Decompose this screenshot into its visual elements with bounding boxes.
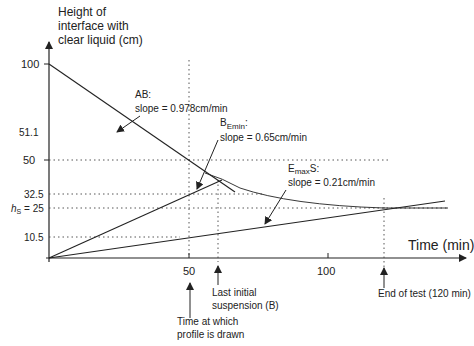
x-axis-label: Time (min) [408,237,474,253]
svg-text:BEmin:: BEmin: [220,117,248,131]
reference-lines [49,60,448,268]
y-axis-label: Height of interface with clear liquid (c… [58,5,143,47]
svg-text:slope = 0.21cm/min: slope = 0.21cm/min [288,177,375,188]
svg-text:suspension (B): suspension (B) [212,300,279,311]
svg-text:interface with: interface with [58,19,129,33]
svg-text:Height of: Height of [58,5,107,19]
svg-text:profile is drawn: profile is drawn [177,329,244,340]
svg-text:End of test (120 min): End of test (120 min) [378,288,471,299]
y-tick-10-5: 10.5 [24,232,44,243]
svg-text:clear liquid (cm): clear liquid (cm) [58,33,143,47]
svg-text:Last initial: Last initial [212,287,256,298]
line-bemin [49,180,222,258]
line-emaxs [49,201,445,258]
y-tick-hs: hS = 25 [11,203,44,215]
svg-text:AB:: AB: [135,89,151,100]
annotation-ab: AB: slope = 0.978cm/min [117,89,228,132]
y-tick-32-5: 32.5 [24,189,44,200]
line-ab [49,64,235,192]
annotation-end-of-test: End of test (120 min) [378,268,471,299]
svg-text:slope = 0.978cm/min: slope = 0.978cm/min [135,103,228,114]
y-tick-100: 100 [21,58,39,70]
svg-text:slope = 0.65cm/min: slope = 0.65cm/min [220,132,307,143]
annotation-emaxs: EmaxS: slope = 0.21cm/min [265,163,375,224]
y-tick-51-1: 51.1 [19,127,39,138]
settling-diagram: Height of interface with clear liquid (c… [0,0,474,346]
x-tick-50: 50 [183,265,195,277]
svg-text:EmaxS:: EmaxS: [288,163,319,176]
x-tick-100: 100 [317,265,335,277]
y-tick-50: 50 [23,154,35,166]
svg-text:Time at which: Time at which [177,316,238,327]
annotation-last-initial: Last initial suspension (B) [212,266,279,311]
